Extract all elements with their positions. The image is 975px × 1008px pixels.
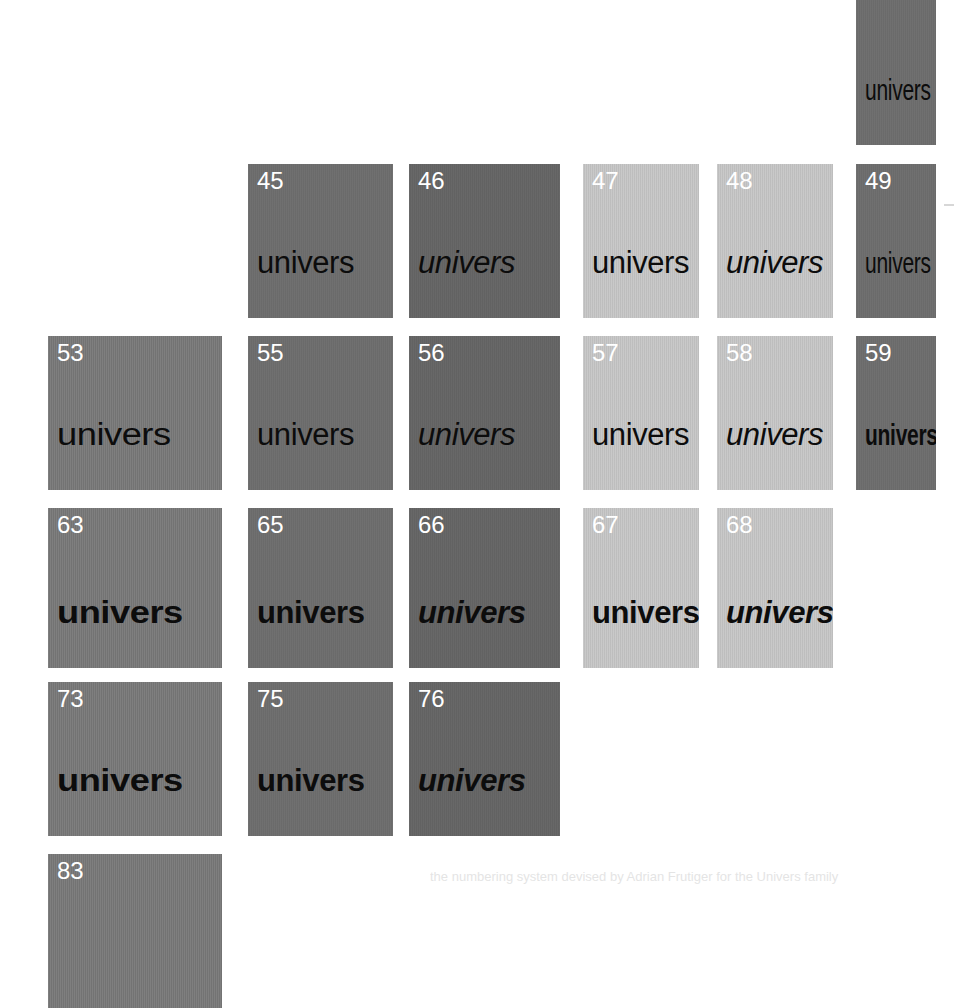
swatch-word-57: univers xyxy=(592,418,689,452)
swatch-number-73: 73 xyxy=(57,685,84,713)
swatch-number-66: 66 xyxy=(418,511,445,539)
specimen-swatch-73: 73univers xyxy=(48,682,222,836)
swatch-number-55: 55 xyxy=(257,339,284,367)
swatch-word-48: univers xyxy=(726,246,823,280)
swatch-word-73: univers xyxy=(57,764,183,798)
swatch-word-39: univers xyxy=(865,73,931,107)
swatch-number-59: 59 xyxy=(865,339,892,367)
swatch-number-68: 68 xyxy=(726,511,753,539)
swatch-number-45: 45 xyxy=(257,167,284,195)
specimen-swatch-56: 56univers xyxy=(409,336,560,490)
swatch-word-63: univers xyxy=(57,596,183,630)
swatch-word-75: univers xyxy=(257,764,364,798)
swatch-number-57: 57 xyxy=(592,339,619,367)
swatch-number-46: 46 xyxy=(418,167,445,195)
swatch-word-55: univers xyxy=(257,418,354,452)
swatch-number-76: 76 xyxy=(418,685,445,713)
specimen-swatch-67: 67univers xyxy=(583,508,699,668)
swatch-number-63: 63 xyxy=(57,511,84,539)
swatch-number-83: 83 xyxy=(57,857,84,885)
swatch-word-49: univers xyxy=(865,246,931,280)
specimen-swatch-39: 39univers xyxy=(856,0,936,145)
swatch-word-47: univers xyxy=(592,246,689,280)
specimen-swatch-83: 83 xyxy=(48,854,222,1008)
swatch-word-68: univers xyxy=(726,596,833,630)
specimen-swatch-58: 58univers xyxy=(717,336,833,490)
swatch-word-59: univers xyxy=(865,418,936,452)
swatch-number-48: 48 xyxy=(726,167,753,195)
swatch-word-56: univers xyxy=(418,418,515,452)
scan-speck xyxy=(944,204,954,206)
specimen-swatch-65: 65univers xyxy=(248,508,393,668)
swatch-word-58: univers xyxy=(726,418,823,452)
swatch-word-65: univers xyxy=(257,596,364,630)
specimen-swatch-45: 45univers xyxy=(248,164,393,318)
swatch-number-47: 47 xyxy=(592,167,619,195)
specimen-swatch-47: 47univers xyxy=(583,164,699,318)
page-caption: the numbering system devised by Adrian F… xyxy=(430,870,970,886)
swatch-word-66: univers xyxy=(418,596,525,630)
specimen-swatch-68: 68univers xyxy=(717,508,833,668)
swatch-number-53: 53 xyxy=(57,339,84,367)
swatch-number-75: 75 xyxy=(257,685,284,713)
swatch-number-58: 58 xyxy=(726,339,753,367)
specimen-swatch-48: 48univers xyxy=(717,164,833,318)
specimen-swatch-63: 63univers xyxy=(48,508,222,668)
swatch-number-49: 49 xyxy=(865,167,892,195)
swatch-word-45: univers xyxy=(257,246,354,280)
specimen-swatch-75: 75univers xyxy=(248,682,393,836)
swatch-word-53: univers xyxy=(57,418,171,452)
swatch-number-67: 67 xyxy=(592,511,619,539)
specimen-swatch-55: 55univers xyxy=(248,336,393,490)
specimen-swatch-46: 46univers xyxy=(409,164,560,318)
swatch-word-46: univers xyxy=(418,246,515,280)
specimen-swatch-76: 76univers xyxy=(409,682,560,836)
specimen-swatch-53: 53univers xyxy=(48,336,222,490)
swatch-number-56: 56 xyxy=(418,339,445,367)
swatch-word-76: univers xyxy=(418,764,525,798)
swatch-word-67: univers xyxy=(592,596,699,630)
specimen-swatch-57: 57univers xyxy=(583,336,699,490)
swatch-number-65: 65 xyxy=(257,511,284,539)
specimen-swatch-66: 66univers xyxy=(409,508,560,668)
specimen-swatch-49: 49univers xyxy=(856,164,936,318)
specimen-swatch-59: 59univers xyxy=(856,336,936,490)
